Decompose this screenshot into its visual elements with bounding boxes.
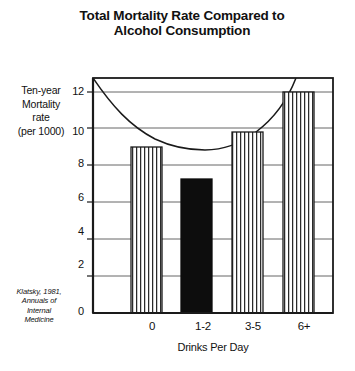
bar-0-drinks [131, 147, 162, 313]
bar-1-2-drinks [181, 179, 212, 313]
plot-area [0, 0, 355, 371]
bar-rect-3 [283, 92, 314, 313]
bar-rect-2 [232, 132, 263, 313]
bar-rect-1 [181, 179, 212, 313]
bar-rect-0 [131, 147, 162, 313]
bar-6plus-drinks [283, 92, 314, 313]
chart-figure: Total Mortality Rate Compared to Alcohol… [0, 0, 355, 371]
bar-3-5-drinks [232, 132, 263, 313]
